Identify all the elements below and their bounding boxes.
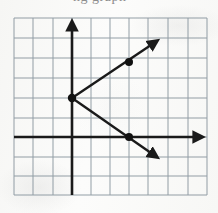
vertex-point — [68, 94, 76, 102]
upper-ray — [72, 45, 151, 98]
coordinate-plane-graph — [0, 0, 218, 213]
lower-ray-point — [125, 133, 133, 141]
plotted-points — [68, 58, 133, 141]
grid-lines — [14, 18, 207, 195]
upper-ray-point — [125, 58, 133, 66]
graph-worksheet-page: ng graph — [0, 0, 218, 213]
lower-ray — [72, 98, 151, 153]
